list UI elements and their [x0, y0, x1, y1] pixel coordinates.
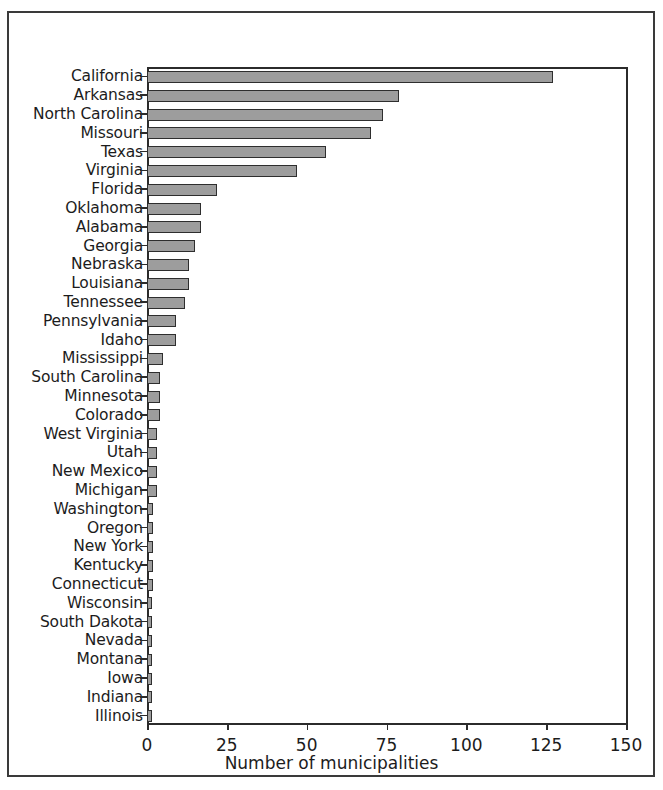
- y-axis-tick: [140, 508, 147, 510]
- y-axis-label-wisconsin: Wisconsin: [67, 594, 143, 612]
- bar-row: [147, 650, 628, 669]
- y-axis-tick: [140, 358, 147, 360]
- bar-row: [147, 481, 628, 500]
- y-axis-tick: [140, 245, 147, 247]
- y-axis-label-california: California: [71, 67, 143, 85]
- y-axis-label-iowa: Iowa: [107, 669, 143, 687]
- x-axis-tick-label: 125: [530, 735, 562, 755]
- y-axis-label-kentucky: Kentucky: [73, 556, 143, 574]
- y-axis-tick: [140, 76, 147, 78]
- y-axis-tick: [140, 207, 147, 209]
- bar-row: [147, 142, 628, 161]
- y-axis-tick: [140, 170, 147, 172]
- bar-iowa: [147, 673, 152, 685]
- y-axis-tick: [140, 433, 147, 435]
- y-axis-label-montana: Montana: [76, 650, 143, 668]
- y-axis-tick: [140, 452, 147, 454]
- y-axis-tick: [140, 132, 147, 134]
- bar-connecticut: [147, 579, 153, 591]
- y-axis-tick: [140, 715, 147, 717]
- bar-chart-figure: CaliforniaArkansasNorth CarolinaMissouri…: [0, 0, 663, 790]
- y-axis-label-alabama: Alabama: [76, 218, 143, 236]
- y-axis-tick: [140, 376, 147, 378]
- y-axis-label-minnesota: Minnesota: [64, 387, 143, 405]
- bar-row: [147, 86, 628, 105]
- y-axis-tick: [140, 527, 147, 529]
- bar-row: [147, 537, 628, 556]
- y-axis-tick: [140, 677, 147, 679]
- x-axis-tick-label: 75: [376, 735, 398, 755]
- y-axis-label-idaho: Idaho: [101, 331, 143, 349]
- y-axis-label-michigan: Michigan: [75, 481, 143, 499]
- bar-row: [147, 255, 628, 274]
- y-axis-tick: [140, 658, 147, 660]
- bar-oklahoma: [147, 203, 201, 215]
- y-axis-label-new-york: New York: [73, 537, 143, 555]
- x-axis-tick: [147, 723, 149, 730]
- x-axis-tick: [307, 723, 309, 730]
- y-axis-label-indiana: Indiana: [87, 688, 143, 706]
- bar-row: [147, 687, 628, 706]
- bar-illinois: [147, 710, 152, 722]
- bar-row: [147, 274, 628, 293]
- y-axis-label-illinois: Illinois: [95, 707, 143, 725]
- bar-west-virginia: [147, 428, 157, 440]
- x-axis-title: Number of municipalities: [0, 753, 663, 773]
- bar-row: [147, 387, 628, 406]
- y-axis-label-north-carolina: North Carolina: [33, 105, 143, 123]
- bar-row: [147, 424, 628, 443]
- bar-new-mexico: [147, 466, 157, 478]
- y-axis-tick: [140, 583, 147, 585]
- y-axis-label-south-carolina: South Carolina: [31, 368, 143, 386]
- bar-row: [147, 293, 628, 312]
- bar-montana: [147, 654, 152, 666]
- x-axis-tick-label: 25: [216, 735, 238, 755]
- bar-utah: [147, 447, 157, 459]
- bar-row: [147, 593, 628, 612]
- bar-row: [147, 405, 628, 424]
- bar-wisconsin: [147, 597, 152, 609]
- y-axis-label-nebraska: Nebraska: [71, 255, 143, 273]
- bar-row: [147, 556, 628, 575]
- x-axis-tick: [546, 723, 548, 730]
- bar-california: [147, 71, 553, 83]
- y-axis-label-missouri: Missouri: [80, 124, 143, 142]
- bar-row: [147, 443, 628, 462]
- y-axis-tick: [140, 320, 147, 322]
- y-axis-label-texas: Texas: [101, 143, 143, 161]
- bar-kentucky: [147, 560, 153, 572]
- y-axis-tick: [140, 113, 147, 115]
- y-axis-label-florida: Florida: [91, 180, 143, 198]
- bar-row: [147, 236, 628, 255]
- y-axis-label-oklahoma: Oklahoma: [65, 199, 143, 217]
- y-axis-tick: [140, 602, 147, 604]
- y-axis-tick: [140, 301, 147, 303]
- y-axis-tick: [140, 621, 147, 623]
- bar-washington: [147, 503, 153, 515]
- bar-row: [147, 67, 628, 86]
- bar-row: [147, 105, 628, 124]
- y-axis-tick: [140, 94, 147, 96]
- y-axis-label-oregon: Oregon: [87, 519, 143, 537]
- y-axis-tick: [140, 282, 147, 284]
- bar-row: [147, 669, 628, 688]
- y-axis-tick: [140, 640, 147, 642]
- bar-idaho: [147, 334, 176, 346]
- x-axis-tick: [227, 723, 229, 730]
- bar-mississippi: [147, 353, 163, 365]
- y-axis-tick: [140, 564, 147, 566]
- bar-row: [147, 180, 628, 199]
- y-axis-label-tennessee: Tennessee: [64, 293, 143, 311]
- y-axis-tick: [140, 188, 147, 190]
- bar-south-dakota: [147, 616, 152, 628]
- y-axis-tick: [140, 226, 147, 228]
- y-axis-label-georgia: Georgia: [83, 237, 143, 255]
- bar-nevada: [147, 635, 152, 647]
- y-axis-label-utah: Utah: [107, 443, 143, 461]
- bar-louisiana: [147, 278, 189, 290]
- bar-michigan: [147, 485, 157, 497]
- bar-alabama: [147, 221, 201, 233]
- bar-south-carolina: [147, 372, 160, 384]
- bar-row: [147, 631, 628, 650]
- y-axis-label-nevada: Nevada: [85, 631, 143, 649]
